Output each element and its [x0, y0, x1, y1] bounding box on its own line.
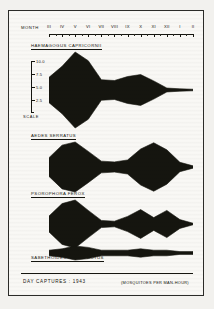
month-axis-label: MONTH	[21, 25, 39, 30]
month-tick	[167, 34, 168, 37]
month-tick	[62, 34, 63, 37]
scale-tick-label: 10.0	[36, 59, 45, 64]
scale-tick	[31, 87, 35, 88]
species-label-psorophora-ferox: PSOROPHORA FEROX	[31, 191, 85, 198]
kite-polygon	[49, 142, 193, 192]
month-tick-minor	[186, 34, 187, 36]
month-tick-minor	[160, 34, 161, 36]
month-tick-label: X	[139, 24, 142, 29]
day-captures-caption: DAY CAPTURES : 1943	[23, 279, 86, 284]
month-tick-minor	[134, 34, 135, 36]
month-tick	[193, 34, 194, 37]
scale-tick-label: 2.5	[36, 98, 42, 103]
figure-plate: MONTH IIIIVVVIVIIVIIIIXXXIXIIIII 10.07.5…	[8, 10, 204, 296]
scale-tick-label: 7.5	[36, 72, 42, 77]
month-tick-label: IX	[125, 24, 129, 29]
footer-divider	[21, 273, 193, 274]
month-tick-label: I	[179, 24, 180, 29]
month-tick	[141, 34, 142, 37]
month-tick-minor	[108, 34, 109, 36]
month-tick-minor	[95, 34, 96, 36]
month-tick-minor	[173, 34, 174, 36]
kite-diagram-aedes-serratus	[49, 141, 193, 193]
month-tick	[154, 34, 155, 37]
kite-polygon	[49, 52, 193, 128]
month-tick	[128, 34, 129, 37]
month-tick-label: XII	[164, 24, 170, 29]
kite-shape	[49, 199, 193, 249]
species-label-haemagogus-capricornii: HAEMAGOGUS CAPRICORNII	[31, 43, 102, 50]
scale-tick	[31, 61, 35, 62]
kite-polygon	[49, 246, 193, 260]
scale-tick	[31, 100, 35, 101]
month-tick	[114, 34, 115, 37]
figure-canvas: MONTH IIIIVVVIVIIVIIIIXXXIXIIIII 10.07.5…	[0, 0, 214, 309]
month-tick-label: III	[47, 24, 51, 29]
kite-shape	[49, 51, 193, 129]
kite-diagram-psorophora-ferox	[49, 199, 193, 249]
month-tick	[88, 34, 89, 37]
month-tick	[101, 34, 102, 37]
month-tick	[180, 34, 181, 37]
units-caption: (MOSQUITOES PER MAN-HOUR)	[121, 280, 189, 285]
kite-diagram-haemagogus-capricornii	[49, 51, 193, 129]
scale-tick-label: 5.0	[36, 85, 42, 90]
scale-word: SCALE	[23, 114, 39, 119]
month-tick	[49, 34, 50, 37]
month-axis: MONTH IIIIVVVIVIIVIIIIXXXIXIIIII	[21, 23, 193, 39]
month-tick-label: XI	[152, 24, 156, 29]
month-tick-minor	[69, 34, 70, 36]
month-tick-label: VII	[98, 24, 104, 29]
kite-shape	[49, 141, 193, 193]
scale-tick	[31, 74, 35, 75]
month-tick-minor	[121, 34, 122, 36]
month-tick-label: V	[74, 24, 77, 29]
kite-polygon	[49, 200, 193, 248]
month-tick-label: II	[192, 24, 195, 29]
month-tick-label: VI	[86, 24, 90, 29]
month-tick	[75, 34, 76, 37]
kite-diagram-sabethoides-imperfectus	[49, 245, 193, 261]
month-tick-minor	[56, 34, 57, 36]
kite-shape	[49, 245, 193, 261]
month-tick-label: VIII	[111, 24, 118, 29]
month-tick-minor	[147, 34, 148, 36]
species-label-aedes-serratus: AEDES SERRATUS	[31, 133, 76, 140]
month-tick-label: IV	[60, 24, 64, 29]
scale-cap-bottom	[31, 112, 34, 113]
month-tick-minor	[82, 34, 83, 36]
